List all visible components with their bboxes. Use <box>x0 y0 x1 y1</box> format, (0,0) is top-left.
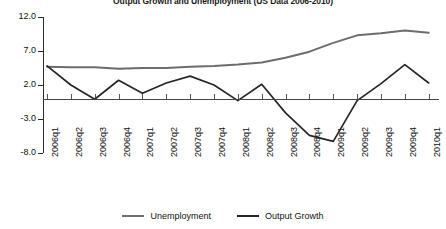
legend-label-unemployment: Unemployment <box>150 211 211 221</box>
legend-item-unemployment: Unemployment <box>122 211 211 221</box>
chart-legend: Unemployment Output Growth <box>0 211 446 221</box>
y-tick-label: 12.0 <box>0 12 36 21</box>
chart-title: Output Growth and Unemployment (US Data … <box>0 0 446 6</box>
zero-line <box>43 99 439 100</box>
y-tick-label: -3.0 <box>0 114 36 123</box>
legend-label-output-growth: Output Growth <box>265 211 324 221</box>
legend-swatch-unemployment <box>122 215 144 217</box>
plot-area <box>43 17 439 153</box>
series-line-unemployment <box>47 31 429 69</box>
y-tick-label: -8.0 <box>0 148 36 157</box>
series-line-output-growth <box>47 65 429 142</box>
chart-container: Output Growth and Unemployment (US Data … <box>0 0 446 229</box>
y-tick-label: 2.0 <box>0 80 36 89</box>
legend-swatch-output-growth <box>237 215 259 218</box>
y-tick <box>38 153 43 154</box>
legend-item-output-growth: Output Growth <box>237 211 324 221</box>
y-tick-label: 7.0 <box>0 46 36 55</box>
